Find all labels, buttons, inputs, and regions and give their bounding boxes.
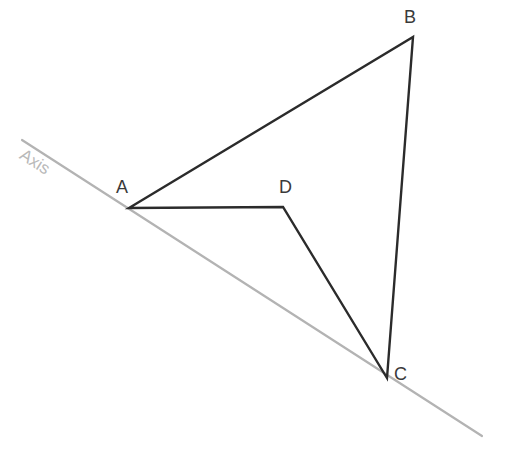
vertex-label-c: C (394, 365, 407, 383)
vertex-label-d: D (279, 178, 292, 196)
vertex-label-a: A (116, 178, 128, 196)
vertex-label-b: B (404, 8, 416, 26)
polygon-abcd-outline (129, 37, 413, 378)
figure-drawing-surface (0, 0, 509, 458)
geometry-figure-canvas: Axis A B C D (0, 0, 509, 458)
axis-line (22, 140, 482, 436)
